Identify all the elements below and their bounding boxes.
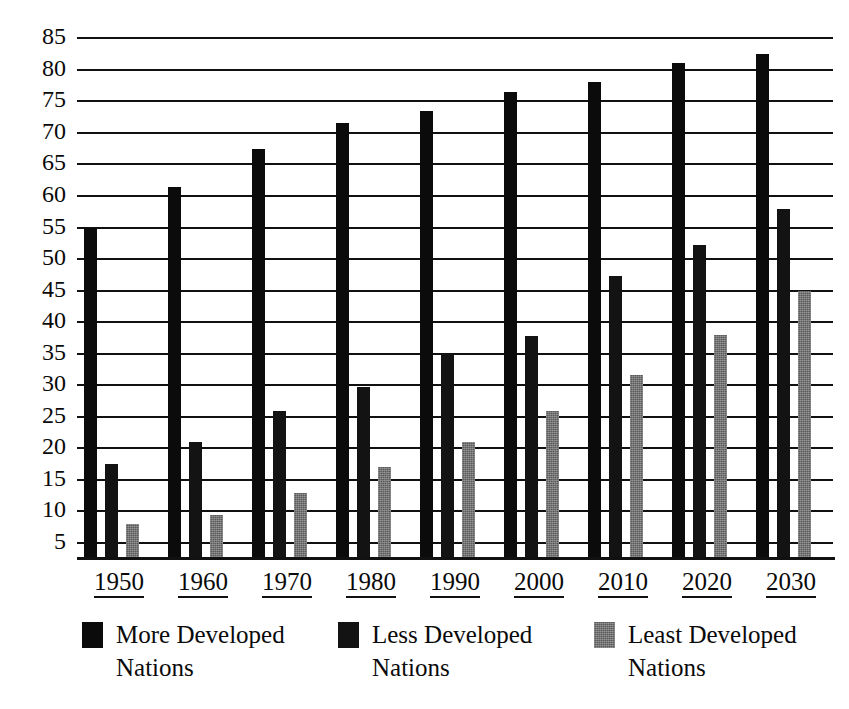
y-tick-label: 50 — [42, 245, 66, 269]
bar-1990-series-0 — [420, 111, 433, 557]
bar-1980-series-2 — [378, 467, 391, 557]
x-tick-label-text: 2030 — [766, 568, 816, 598]
bar-2000-series-2 — [546, 411, 559, 558]
x-tick-label-text: 1960 — [178, 568, 228, 598]
bar-group-2000 — [497, 0, 581, 600]
bar-1970-series-2 — [294, 493, 307, 557]
y-tick-label: 40 — [42, 308, 66, 332]
x-tick-label-text: 1970 — [262, 568, 312, 598]
legend-label: More Developed Nations — [116, 618, 285, 684]
y-tick-label: 65 — [42, 150, 66, 174]
x-tick-label-text: 2000 — [514, 568, 564, 598]
bar-1950-series-1 — [105, 464, 118, 557]
y-tick-label: 15 — [42, 466, 66, 490]
legend-label: Less Developed Nations — [372, 618, 532, 684]
x-tick-label-1990: 1990 — [413, 568, 497, 596]
y-tick-label: 30 — [42, 371, 66, 395]
bar-group-1970 — [245, 0, 329, 600]
x-tick-label-1980: 1980 — [329, 568, 413, 596]
x-tick-label-text: 1950 — [94, 568, 144, 598]
x-tick-label-text: 1980 — [346, 568, 396, 598]
bar-group-1990 — [413, 0, 497, 600]
bar-1950-series-0 — [84, 228, 97, 558]
bar-1960-series-1 — [189, 442, 202, 557]
bar-1970-series-0 — [252, 149, 265, 557]
x-tick-label-2020: 2020 — [665, 568, 749, 596]
x-axis-tick-labels: 195019601970198019902000201020202030 — [77, 560, 833, 606]
y-tick-label: 25 — [42, 403, 66, 427]
plot-area: 858075706560555045403530252015105 — [0, 0, 849, 600]
legend-label: Least Developed Nations — [628, 618, 797, 684]
bar-series-container — [77, 0, 833, 600]
bar-1980-series-1 — [357, 387, 370, 557]
bar-group-2030 — [749, 0, 833, 600]
legend-swatch-icon — [338, 622, 359, 648]
y-axis-tick-labels: 858075706560555045403530252015105 — [0, 0, 72, 600]
y-tick-label: 10 — [42, 497, 66, 521]
bar-2030-series-0 — [756, 54, 769, 557]
legend-item-1[interactable]: Less Developed Nations — [338, 618, 532, 684]
y-tick-label: 70 — [42, 119, 66, 143]
bar-1970-series-1 — [273, 411, 286, 558]
bar-2010-series-1 — [609, 276, 622, 557]
bar-group-1950 — [77, 0, 161, 600]
x-tick-label-text: 2020 — [682, 568, 732, 598]
y-tick-label: 60 — [42, 182, 66, 206]
bar-group-1980 — [329, 0, 413, 600]
bar-group-2020 — [665, 0, 749, 600]
y-tick-label: 55 — [42, 214, 66, 238]
x-tick-label-2010: 2010 — [581, 568, 665, 596]
bar-2020-series-0 — [672, 63, 685, 557]
x-tick-label-2030: 2030 — [749, 568, 833, 596]
bar-group-1960 — [161, 0, 245, 600]
x-tick-label-text: 2010 — [598, 568, 648, 598]
bar-2030-series-1 — [777, 209, 790, 557]
x-tick-label-1960: 1960 — [161, 568, 245, 596]
legend-item-0[interactable]: More Developed Nations — [82, 618, 285, 684]
bar-group-2010 — [581, 0, 665, 600]
legend-swatch-icon — [82, 622, 103, 648]
bar-1980-series-0 — [336, 123, 349, 557]
y-tick-label: 35 — [42, 340, 66, 364]
bar-2020-series-1 — [693, 245, 706, 557]
bar-1960-series-0 — [168, 187, 181, 558]
y-tick-label: 75 — [42, 87, 66, 111]
bar-2010-series-2 — [630, 375, 643, 557]
bar-2000-series-0 — [504, 92, 517, 557]
bar-1960-series-2 — [210, 515, 223, 557]
chart-page: 858075706560555045403530252015105 195019… — [0, 0, 849, 709]
bar-2030-series-2 — [798, 291, 811, 557]
legend-swatch-icon — [594, 622, 615, 648]
bar-2000-series-1 — [525, 336, 538, 557]
y-tick-label: 5 — [54, 529, 66, 553]
y-tick-label: 45 — [42, 277, 66, 301]
legend-item-2[interactable]: Least Developed Nations — [594, 618, 797, 684]
bar-1990-series-1 — [441, 354, 454, 557]
bar-1950-series-2 — [126, 524, 139, 557]
chart-legend: More Developed NationsLess Developed Nat… — [0, 618, 849, 709]
x-tick-label-1970: 1970 — [245, 568, 329, 596]
bar-2010-series-0 — [588, 82, 601, 557]
x-tick-label-2000: 2000 — [497, 568, 581, 596]
y-tick-label: 85 — [42, 24, 66, 48]
y-tick-label: 80 — [42, 56, 66, 80]
x-tick-label-text: 1990 — [430, 568, 480, 598]
bar-2020-series-2 — [714, 335, 727, 557]
y-tick-label: 20 — [42, 434, 66, 458]
bar-1990-series-2 — [462, 442, 475, 557]
x-tick-label-1950: 1950 — [77, 568, 161, 596]
